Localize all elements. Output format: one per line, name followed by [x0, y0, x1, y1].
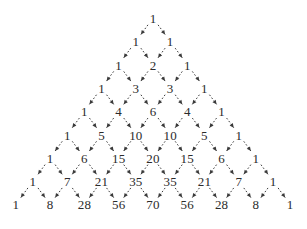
- pascal-entry-r3-c1: 3: [132, 81, 139, 94]
- pascal-entry-r3-c3: 1: [201, 81, 208, 94]
- pascal-entry-r6-c1: 6: [81, 151, 88, 164]
- pascal-entry-r7-c5: 21: [198, 175, 211, 188]
- pascal-entry-r3-c0: 1: [98, 81, 105, 94]
- pascal-entry-r7-c7: 1: [270, 175, 277, 188]
- pascal-entry-r2-c1: 2: [150, 58, 157, 71]
- pascal-entry-r5-c5: 1: [235, 128, 242, 141]
- pascal-entry-r8-c3: 56: [112, 198, 125, 211]
- pascals-triangle-figure: 1111211331146411510105116152015611721353…: [0, 0, 307, 229]
- pascal-entry-r6-c2: 15: [112, 151, 125, 164]
- pascal-entry-r4-c1: 4: [115, 105, 122, 118]
- pascal-entry-r5-c1: 5: [98, 128, 105, 141]
- number-layer: 1111211331146411510105116152015611721353…: [0, 0, 307, 229]
- pascal-entry-r6-c3: 20: [146, 151, 159, 164]
- pascal-entry-r3-c2: 3: [167, 81, 174, 94]
- pascal-entry-r8-c8: 1: [287, 198, 294, 211]
- pascal-entry-r6-c0: 1: [47, 151, 54, 164]
- pascal-entry-r8-c2: 28: [78, 198, 91, 211]
- pascal-entry-r7-c2: 21: [95, 175, 108, 188]
- pascal-entry-r8-c0: 1: [12, 198, 19, 211]
- pascal-entry-r7-c3: 35: [129, 175, 142, 188]
- pascal-entry-r6-c5: 6: [218, 151, 225, 164]
- pascal-entry-r4-c0: 1: [81, 105, 88, 118]
- pascal-entry-r7-c1: 7: [64, 175, 71, 188]
- pascal-entry-r8-c4: 70: [146, 198, 159, 211]
- pascal-entry-r4-c4: 1: [218, 105, 225, 118]
- pascal-entry-r4-c3: 4: [184, 105, 191, 118]
- pascal-entry-r8-c5: 56: [181, 198, 194, 211]
- pascal-entry-r1-c0: 1: [132, 35, 139, 48]
- pascal-entry-r5-c3: 10: [163, 128, 176, 141]
- pascal-entry-r7-c4: 35: [163, 175, 176, 188]
- pascal-entry-r0-c0: 1: [150, 12, 157, 25]
- pascal-entry-r4-c2: 6: [150, 105, 157, 118]
- pascal-entry-r7-c6: 7: [235, 175, 242, 188]
- pascal-entry-r1-c1: 1: [167, 35, 174, 48]
- pascal-entry-r5-c4: 5: [201, 128, 208, 141]
- pascal-entry-r7-c0: 1: [30, 175, 37, 188]
- pascal-entry-r8-c7: 8: [253, 198, 260, 211]
- pascal-entry-r8-c6: 28: [215, 198, 228, 211]
- pascal-entry-r2-c0: 1: [115, 58, 122, 71]
- pascal-entry-r8-c1: 8: [47, 198, 54, 211]
- pascal-entry-r6-c6: 1: [253, 151, 260, 164]
- pascal-entry-r5-c0: 1: [64, 128, 71, 141]
- pascal-entry-r6-c4: 15: [181, 151, 194, 164]
- pascal-entry-r5-c2: 10: [129, 128, 142, 141]
- pascal-entry-r2-c2: 1: [184, 58, 191, 71]
